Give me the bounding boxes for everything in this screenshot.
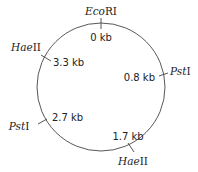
enzyme-label: EcoRI	[84, 5, 117, 17]
enzyme-label: HaeII	[117, 155, 148, 167]
plasmid-map: EcoRI 0 kb PstI 0.8 kb HaeII 1.7 kb PstI…	[0, 0, 198, 172]
site-psti-2: PstI 2.7 kb	[8, 112, 84, 132]
enzyme-label: PstI	[169, 65, 191, 77]
enzyme-label: PstI	[8, 120, 30, 132]
position-label: 0.8 kb	[124, 72, 155, 83]
position-label: 2.7 kb	[52, 112, 83, 123]
tick-mark	[38, 119, 47, 124]
position-label: 1.7 kb	[112, 131, 143, 142]
position-label: 0 kb	[90, 32, 112, 43]
enzyme-label: HaeII	[10, 41, 41, 53]
position-label: 3.3 kb	[53, 57, 84, 68]
site-haeii-2: HaeII 3.3 kb	[10, 41, 84, 68]
site-psti-1: PstI 0.8 kb	[124, 65, 191, 83]
tick-mark	[128, 143, 134, 152]
